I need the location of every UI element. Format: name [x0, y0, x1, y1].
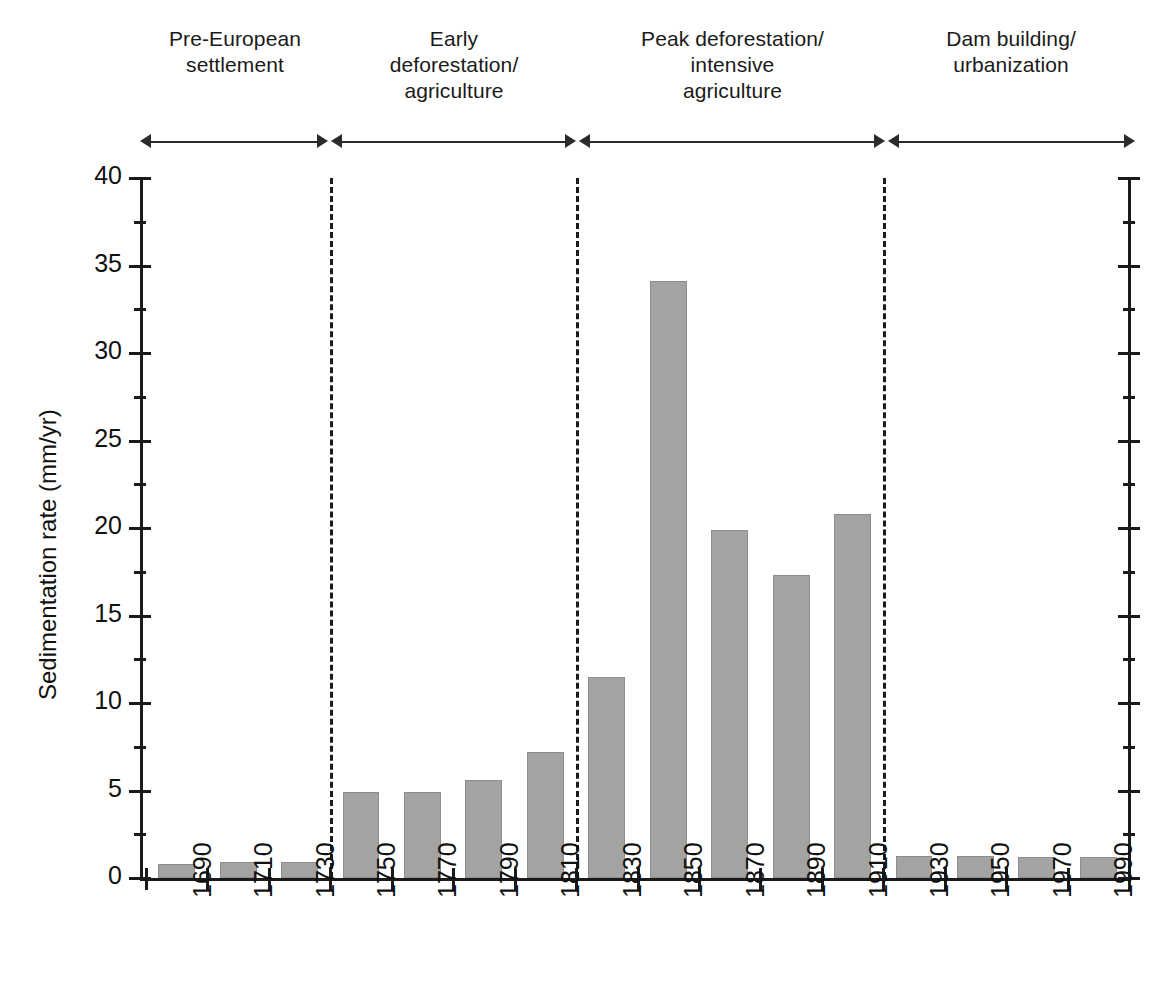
y-tick-major — [129, 352, 151, 355]
x-tick-label: 1850 — [679, 842, 708, 898]
bar — [773, 575, 810, 878]
bar — [711, 530, 748, 878]
arrow-shaft — [338, 141, 569, 143]
y-tick-minor — [1123, 308, 1135, 311]
y-tick-major — [1118, 352, 1140, 355]
y-tick-major — [129, 702, 151, 705]
y-tick-major — [129, 177, 151, 180]
era-label-line: Early — [330, 26, 578, 52]
y-tick-label: 30 — [62, 336, 122, 365]
y-tick-label: 20 — [62, 511, 122, 540]
y-tick-minor — [1123, 571, 1135, 574]
era-label-pre-european: Pre-Europeansettlement — [140, 26, 330, 78]
x-tick-label: 1750 — [372, 842, 401, 898]
chart-figure: Pre-Europeansettlement Earlydeforestatio… — [0, 0, 1167, 989]
y-tick-major — [1118, 615, 1140, 618]
y-tick-major — [129, 615, 151, 618]
x-tick-label: 1870 — [741, 842, 770, 898]
y-tick-label: 10 — [62, 686, 122, 715]
era-label-line: urbanization — [887, 52, 1135, 78]
x-tick-label: 1770 — [433, 842, 462, 898]
y-tick-minor — [134, 483, 146, 486]
era-label-line: Pre-European — [140, 26, 330, 52]
y-tick-minor — [134, 658, 146, 661]
era-arrow-dam-building — [888, 132, 1135, 152]
x-tick-label: 1690 — [188, 842, 217, 898]
x-tick-label: 1790 — [495, 842, 524, 898]
y-tick-minor — [1123, 483, 1135, 486]
y-tick-minor — [134, 221, 146, 224]
arrow-shaft — [147, 141, 321, 143]
era-label-line: agriculture — [330, 78, 578, 104]
y-tick-minor — [134, 746, 146, 749]
y-tick-label: 5 — [62, 774, 122, 803]
x-tick-label: 1890 — [802, 842, 831, 898]
y-tick-label: 25 — [62, 424, 122, 453]
era-label-line: intensive — [578, 52, 887, 78]
y-tick-label: 0 — [62, 861, 122, 890]
y-tick-minor — [1123, 746, 1135, 749]
x-tick-label: 1950 — [986, 842, 1015, 898]
x-tick — [145, 868, 148, 890]
x-tick-label: 1990 — [1109, 842, 1138, 898]
era-label-early-deforestation: Earlydeforestation/agriculture — [330, 26, 578, 104]
y-tick-major — [129, 790, 151, 793]
y-tick-major — [1118, 440, 1140, 443]
era-label-line: Dam building/ — [887, 26, 1135, 52]
x-tick-label: 1810 — [556, 842, 585, 898]
era-label-line: agriculture — [578, 78, 887, 104]
era-label-line: Peak deforestation/ — [578, 26, 887, 52]
arrow-right-icon — [565, 134, 576, 148]
y-tick-minor — [134, 833, 146, 836]
y-tick-major — [129, 265, 151, 268]
x-tick-label: 1710 — [249, 842, 278, 898]
y-tick-minor — [134, 571, 146, 574]
arrow-shaft — [895, 141, 1128, 143]
y-tick-minor — [1123, 658, 1135, 661]
x-tick-label: 1830 — [618, 842, 647, 898]
y-axis-title: Sedimentation rate (mm/yr) — [34, 409, 62, 700]
y-tick-major — [1118, 177, 1140, 180]
y-tick-major — [129, 527, 151, 530]
era-arrow-pre-european — [140, 132, 328, 152]
plot-area — [140, 178, 1131, 880]
y-tick-minor — [1123, 833, 1135, 836]
y-tick-major — [1118, 527, 1140, 530]
era-label-line: settlement — [140, 52, 330, 78]
y-tick-label: 35 — [62, 249, 122, 278]
x-tick-label: 1970 — [1048, 842, 1077, 898]
y-tick-major — [1118, 790, 1140, 793]
y-tick-label: 15 — [62, 599, 122, 628]
era-divider — [330, 178, 333, 878]
bar — [834, 514, 871, 878]
y-tick-minor — [1123, 221, 1135, 224]
arrow-right-icon — [1124, 134, 1135, 148]
y-tick-major — [129, 440, 151, 443]
y-tick-label: 40 — [62, 161, 122, 190]
era-divider — [576, 178, 579, 878]
y-tick-major — [1118, 702, 1140, 705]
bar — [650, 281, 687, 878]
y-tick-minor — [1123, 396, 1135, 399]
arrow-right-icon — [874, 134, 885, 148]
arrow-right-icon — [317, 134, 328, 148]
y-tick-minor — [134, 308, 146, 311]
era-arrow-early-deforestation — [331, 132, 576, 152]
y-tick-minor — [134, 396, 146, 399]
era-arrow-peak-deforestation — [579, 132, 885, 152]
era-label-peak-deforestation: Peak deforestation/intensiveagriculture — [578, 26, 887, 104]
x-tick-label: 1910 — [864, 842, 893, 898]
era-divider — [883, 178, 886, 878]
arrow-shaft — [586, 141, 878, 143]
x-tick-label: 1930 — [925, 842, 954, 898]
era-label-line: deforestation/ — [330, 52, 578, 78]
y-tick-major — [1118, 265, 1140, 268]
x-tick-label: 1730 — [311, 842, 340, 898]
era-label-dam-building: Dam building/urbanization — [887, 26, 1135, 78]
